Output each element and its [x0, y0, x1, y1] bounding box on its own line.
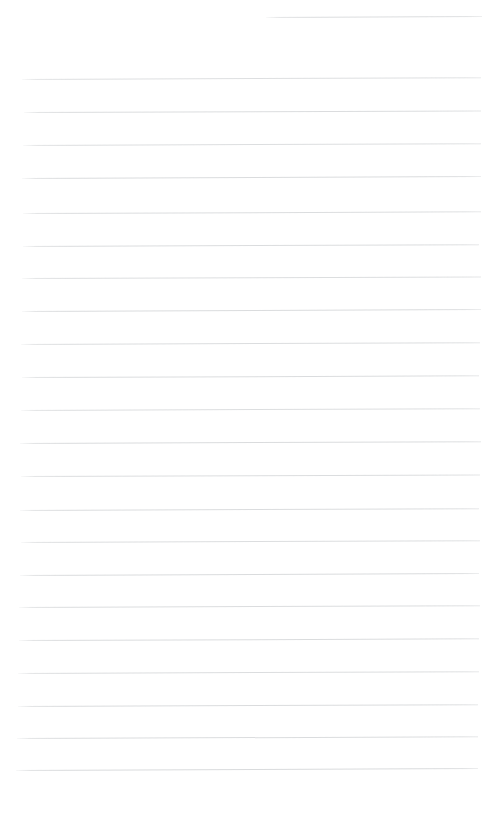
- ruled-line: [21, 474, 480, 477]
- ruled-line: [22, 276, 481, 279]
- ruled-line: [19, 638, 479, 641]
- paper-texture-overlay: [0, 0, 502, 813]
- ruled-line: [22, 375, 479, 378]
- scanned-page: Blank Ruled Notebook Page: [0, 0, 502, 813]
- ruled-line: [23, 244, 479, 247]
- ruled-line: [18, 704, 478, 707]
- ruled-line: [20, 441, 481, 444]
- ruled-line: [22, 77, 481, 80]
- ruled-line: [22, 176, 481, 179]
- ruled-line: [17, 736, 478, 739]
- ruled-line: [21, 408, 480, 411]
- ruled-line: [23, 211, 481, 214]
- ruled-line: [19, 605, 480, 608]
- ruled-line: [22, 309, 481, 312]
- ruled-line: [20, 508, 479, 511]
- ruled-line: [266, 16, 482, 18]
- ruled-line: [16, 768, 478, 771]
- ruled-line: [21, 540, 480, 543]
- ruled-line: [18, 671, 479, 674]
- ruled-line: [20, 573, 479, 576]
- ruled-line: [23, 143, 481, 146]
- ruled-line: [24, 110, 481, 113]
- ruled-line: [21, 342, 480, 345]
